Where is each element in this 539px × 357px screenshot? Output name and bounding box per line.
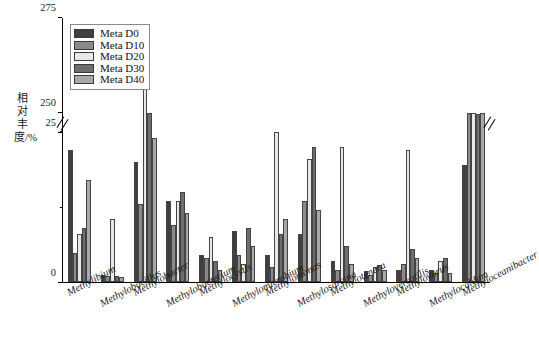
legend-item: Meta D40 [74, 74, 144, 86]
bar-group [457, 18, 490, 282]
y-axis-tick-label: 25 [46, 118, 57, 129]
bar-group [162, 18, 195, 282]
y-axis-tick-label: 275 [40, 3, 56, 14]
bar [382, 270, 387, 282]
bar-group [391, 18, 424, 282]
legend-item: Meta D20 [74, 51, 144, 63]
bar [185, 213, 190, 282]
bar-group [424, 18, 457, 282]
bar-group [227, 18, 260, 282]
legend-label: Meta D30 [100, 63, 144, 74]
legend-item: Meta D0 [74, 28, 144, 40]
bar-group [326, 18, 359, 282]
y-axis-tick [58, 282, 62, 283]
bar [152, 138, 157, 282]
y-axis-tick [58, 112, 62, 113]
legend-swatch [74, 64, 94, 73]
bar [119, 277, 124, 282]
bar-group [194, 18, 227, 282]
bar [480, 113, 485, 282]
y-axis-tick [58, 132, 62, 133]
y-axis-title-text: 相对丰度/% [14, 92, 30, 144]
legend: Meta D0Meta D10Meta D20Meta D30Meta D40 [70, 24, 150, 90]
legend-swatch [74, 29, 94, 38]
legend-swatch [74, 75, 94, 84]
y-axis-title: 相对丰度/% [14, 92, 30, 144]
bar [448, 273, 453, 282]
x-axis-labels: MethylibiumMethylobacillusMethylobacterM… [62, 286, 490, 357]
bar-group [359, 18, 392, 282]
bar-group [260, 18, 293, 282]
y-axis-minor-tick [60, 207, 63, 208]
y-axis-tick-label: 0 [51, 268, 56, 279]
bar [251, 246, 256, 282]
legend-swatch [74, 52, 94, 61]
legend-label: Meta D20 [100, 51, 144, 62]
y-axis-tick [58, 17, 62, 18]
legend-swatch [74, 41, 94, 50]
legend-label: Meta D10 [100, 40, 144, 51]
bar-group [293, 18, 326, 282]
bar [86, 180, 91, 282]
legend-label: Meta D40 [100, 74, 144, 85]
legend-label: Meta D0 [100, 28, 139, 39]
y-axis-tick-label: 250 [40, 98, 56, 109]
y-axis-minor-tick [60, 131, 63, 132]
